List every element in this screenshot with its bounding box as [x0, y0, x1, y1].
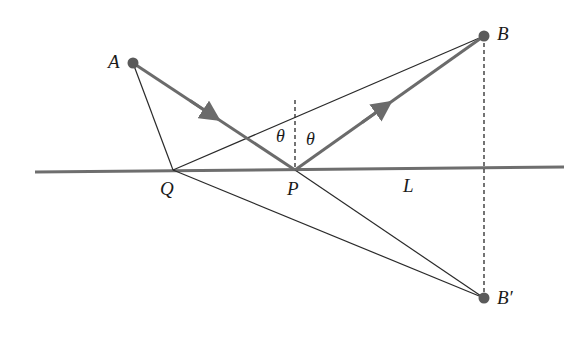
incident-ray-A-P: [133, 63, 295, 170]
incident-ray-arrow: [190, 101, 212, 116]
label-A: A: [106, 51, 120, 72]
reflected-ray-P-B: [295, 36, 484, 170]
point-B: [479, 31, 490, 42]
segment-A-Q: [133, 63, 173, 170]
segment-Q-Bprime: [173, 170, 484, 298]
point-A: [128, 58, 139, 69]
label-theta-reflected: θ: [306, 129, 315, 149]
segment-P-Bprime: [295, 170, 484, 298]
label-B: B: [497, 23, 509, 44]
reflected-ray-arrow: [362, 107, 384, 123]
label-B-prime: B′: [497, 287, 514, 308]
label-Q: Q: [160, 178, 174, 199]
reflection-diagram: A B B′ Q P L θ θ: [0, 0, 586, 337]
label-theta-incident: θ: [276, 126, 285, 146]
segment-Q-B: [173, 36, 484, 170]
label-P: P: [286, 178, 299, 199]
label-L: L: [402, 175, 414, 196]
point-B-prime: [479, 293, 490, 304]
